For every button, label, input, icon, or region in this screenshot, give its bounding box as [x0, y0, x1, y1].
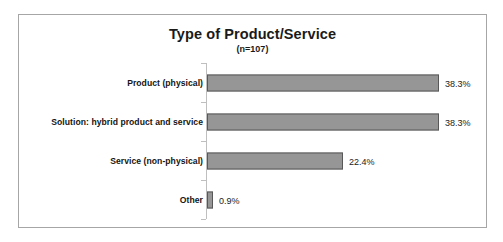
bar-row: Service (non-physical) 22.4%: [19, 143, 488, 179]
bar-track: 38.3%: [207, 75, 471, 92]
chart-title: Type of Product/Service: [19, 26, 486, 42]
bar-row: Product (physical) 38.3%: [19, 65, 488, 101]
chart-frame: Type of Product/Service (n=107) Product …: [18, 14, 487, 228]
bar-value-label: 38.3%: [445, 78, 471, 88]
axis-tick: [201, 141, 206, 142]
bar-track: 0.9%: [207, 192, 240, 209]
bar-row: Other 0.9%: [19, 182, 488, 218]
bar-value-label: 38.3%: [445, 117, 471, 127]
axis-tick: [201, 219, 206, 220]
axis-tick: [201, 180, 206, 181]
axis-tick: [201, 102, 206, 103]
plot-area: Product (physical) 38.3% Solution: hybri…: [19, 63, 488, 221]
bar-category-label: Product (physical): [127, 78, 203, 88]
axis-tick: [201, 63, 206, 64]
bar-value-label: 0.9%: [219, 195, 240, 205]
bar-track: 22.4%: [207, 153, 375, 170]
bar-solution-hybrid[interactable]: [207, 114, 439, 131]
bar-track: 38.3%: [207, 114, 471, 131]
bar-product-physical[interactable]: [207, 75, 439, 92]
bar-value-label: 22.4%: [349, 156, 375, 166]
bar-category-label: Other: [180, 195, 203, 205]
bar-other[interactable]: [207, 192, 213, 209]
bar-category-label: Service (non-physical): [110, 156, 203, 166]
chart-subtitle: (n=107): [19, 44, 486, 54]
bar-service-non-physical[interactable]: [207, 153, 343, 170]
bar-row: Solution: hybrid product and service 38.…: [19, 104, 488, 140]
bar-category-label: Solution: hybrid product and service: [51, 117, 203, 127]
